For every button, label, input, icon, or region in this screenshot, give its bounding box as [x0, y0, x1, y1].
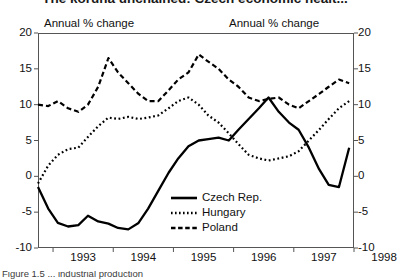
series-line-hungary	[38, 98, 349, 184]
series-line-poland	[38, 55, 349, 112]
legend-key-czech-solid	[171, 193, 197, 203]
legend-key-poland-dashed	[171, 223, 197, 233]
chart-legend: Czech Rep. Hungary Poland	[171, 191, 262, 236]
legend-item-poland: Poland	[171, 221, 262, 235]
figure-caption-text: Figure 1.5 ... industrial production	[2, 271, 143, 279]
legend-label-hungary: Hungary	[202, 207, 245, 219]
legend-label-czech: Czech Rep.	[202, 192, 262, 204]
legend-label-poland: Poland	[202, 222, 238, 234]
legend-key-hungary-dotted	[171, 208, 197, 218]
legend-item-hungary: Hungary	[171, 206, 262, 220]
figure-caption: Figure 1.5 ... industrial production	[0, 271, 390, 280]
legend-item-czech: Czech Rep.	[171, 191, 262, 205]
